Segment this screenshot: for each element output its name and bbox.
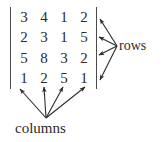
matrix-cell: 4 xyxy=(34,7,54,28)
matrix-row: 1 2 5 1 xyxy=(14,69,94,90)
matrix-cell: 1 xyxy=(74,69,94,90)
rows-label: rows xyxy=(119,39,146,53)
matrix-cell: 5 xyxy=(74,28,94,49)
rows-arrow xyxy=(100,19,117,46)
columns-arrow xyxy=(46,87,63,118)
matrix-grid: 3 4 1 2 2 3 1 5 5 8 3 2 1 xyxy=(14,7,94,89)
columns-label: columns xyxy=(15,121,66,136)
matrix-cell: 2 xyxy=(14,28,34,49)
matrix-cell: 3 xyxy=(14,7,34,28)
columns-arrow xyxy=(20,89,46,118)
matrix-cell: 2 xyxy=(74,7,94,28)
matrix: 3 4 1 2 2 3 1 5 5 8 3 2 1 xyxy=(10,7,98,89)
matrix-row: 5 8 3 2 xyxy=(14,48,94,69)
matrix-left-bar xyxy=(10,7,11,89)
matrix-cell: 5 xyxy=(14,48,34,69)
matrix-annotation-figure: 3 4 1 2 2 3 1 5 5 8 3 2 1 xyxy=(0,0,164,142)
matrix-cell: 1 xyxy=(14,69,34,90)
matrix-cell: 3 xyxy=(34,28,54,49)
matrix-row: 2 3 1 5 xyxy=(14,28,94,49)
columns-arrow xyxy=(46,87,85,118)
matrix-cell: 3 xyxy=(54,48,74,69)
matrix-cell: 2 xyxy=(74,48,94,69)
columns-arrow xyxy=(44,87,46,118)
matrix-row: 3 4 1 2 xyxy=(14,7,94,28)
matrix-cell: 5 xyxy=(54,69,74,90)
matrix-cell: 1 xyxy=(54,7,74,28)
rows-arrow xyxy=(100,46,117,80)
rows-arrow xyxy=(99,46,117,55)
columns-arrow-group xyxy=(20,87,85,118)
matrix-cell: 1 xyxy=(54,28,74,49)
matrix-cell: 8 xyxy=(34,48,54,69)
matrix-cell: 2 xyxy=(34,69,54,90)
rows-arrow-group xyxy=(99,19,117,80)
matrix-right-bar xyxy=(96,7,97,89)
rows-arrow xyxy=(99,37,117,46)
